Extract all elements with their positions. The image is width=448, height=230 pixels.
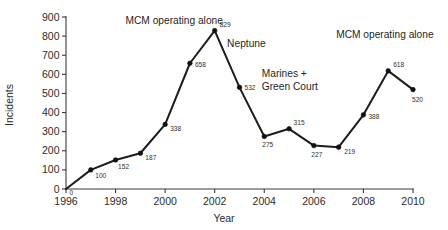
x-axis-tick-label: 2002 bbox=[203, 195, 227, 207]
y-axis-tick-label: 300 bbox=[42, 125, 60, 137]
x-axis-tick-label: 2006 bbox=[302, 195, 326, 207]
data-point-label: 187 bbox=[145, 154, 156, 161]
x-axis-tick-label: 1998 bbox=[104, 195, 128, 207]
data-point-label: 520 bbox=[412, 96, 423, 103]
data-point-marker bbox=[361, 113, 366, 118]
chart-annotation-label: Neptune bbox=[227, 38, 266, 49]
data-point-marker bbox=[88, 168, 93, 173]
y-axis-tick-label: 200 bbox=[42, 144, 60, 156]
y-axis-tick-label: 500 bbox=[42, 87, 60, 99]
chart-annotation-label: MCM operating alone bbox=[125, 15, 223, 26]
chart-annotation-label: Marines + bbox=[262, 68, 307, 79]
y-axis-tick-label: 100 bbox=[42, 163, 60, 175]
data-point-marker bbox=[237, 85, 242, 90]
y-axis-tick-label: 0 bbox=[54, 183, 60, 195]
data-point-label: 100 bbox=[95, 172, 106, 179]
chart-annotations: MCM operating aloneNeptuneMarines +Green… bbox=[125, 15, 433, 91]
data-point-marker bbox=[411, 87, 416, 92]
data-point-label: 275 bbox=[262, 141, 273, 148]
y-axis-tick-label: 800 bbox=[42, 30, 60, 42]
incidents-line-chart: 0100200300400500600700800900 19961998200… bbox=[0, 0, 448, 230]
x-axis-tick-label: 1996 bbox=[54, 195, 78, 207]
data-point-label: 219 bbox=[344, 148, 355, 155]
y-axis-tick-label: 600 bbox=[42, 68, 60, 80]
x-axis: 19961998200020022004200620082010 bbox=[54, 189, 425, 207]
data-point-marker bbox=[138, 151, 143, 156]
y-axis-title: Incidents bbox=[3, 84, 15, 126]
x-axis-title: Year bbox=[213, 212, 235, 224]
data-point-marker bbox=[163, 122, 168, 127]
chart-annotation-label: Green Court bbox=[262, 81, 318, 92]
y-axis-tick-label: 900 bbox=[42, 11, 60, 23]
chart-annotation-label: MCM operating alone bbox=[336, 29, 434, 40]
data-point-label: 618 bbox=[393, 61, 404, 68]
y-axis: 0100200300400500600700800900 bbox=[42, 11, 66, 195]
data-point-label: 152 bbox=[118, 163, 129, 170]
data-point-label: 315 bbox=[294, 119, 305, 126]
data-point-label: 658 bbox=[195, 61, 206, 68]
data-point-marker bbox=[386, 69, 391, 74]
x-axis-tick-label: 2004 bbox=[253, 195, 277, 207]
data-point-marker bbox=[336, 145, 341, 150]
x-axis-tick-label: 2000 bbox=[153, 195, 177, 207]
data-point-label: 227 bbox=[311, 151, 322, 158]
data-point-label: 0 bbox=[70, 189, 74, 196]
plot-area: 0100200300400500600700800900 19961998200… bbox=[42, 11, 434, 207]
data-point-marker bbox=[113, 158, 118, 163]
x-axis-tick-label: 2008 bbox=[352, 195, 376, 207]
data-point-marker bbox=[188, 61, 193, 66]
data-point-marker bbox=[312, 143, 317, 148]
chart-canvas: 0100200300400500600700800900 19961998200… bbox=[0, 0, 448, 230]
data-point-marker bbox=[262, 134, 267, 139]
y-axis-tick-label: 700 bbox=[42, 49, 60, 61]
data-point-marker bbox=[212, 28, 217, 33]
data-point-marker bbox=[287, 127, 292, 132]
y-axis-tick-label: 400 bbox=[42, 106, 60, 118]
data-point-label: 532 bbox=[245, 84, 256, 91]
data-point-label: 338 bbox=[170, 125, 181, 132]
data-point-label: 388 bbox=[368, 113, 379, 120]
x-axis-tick-label: 2010 bbox=[401, 195, 425, 207]
